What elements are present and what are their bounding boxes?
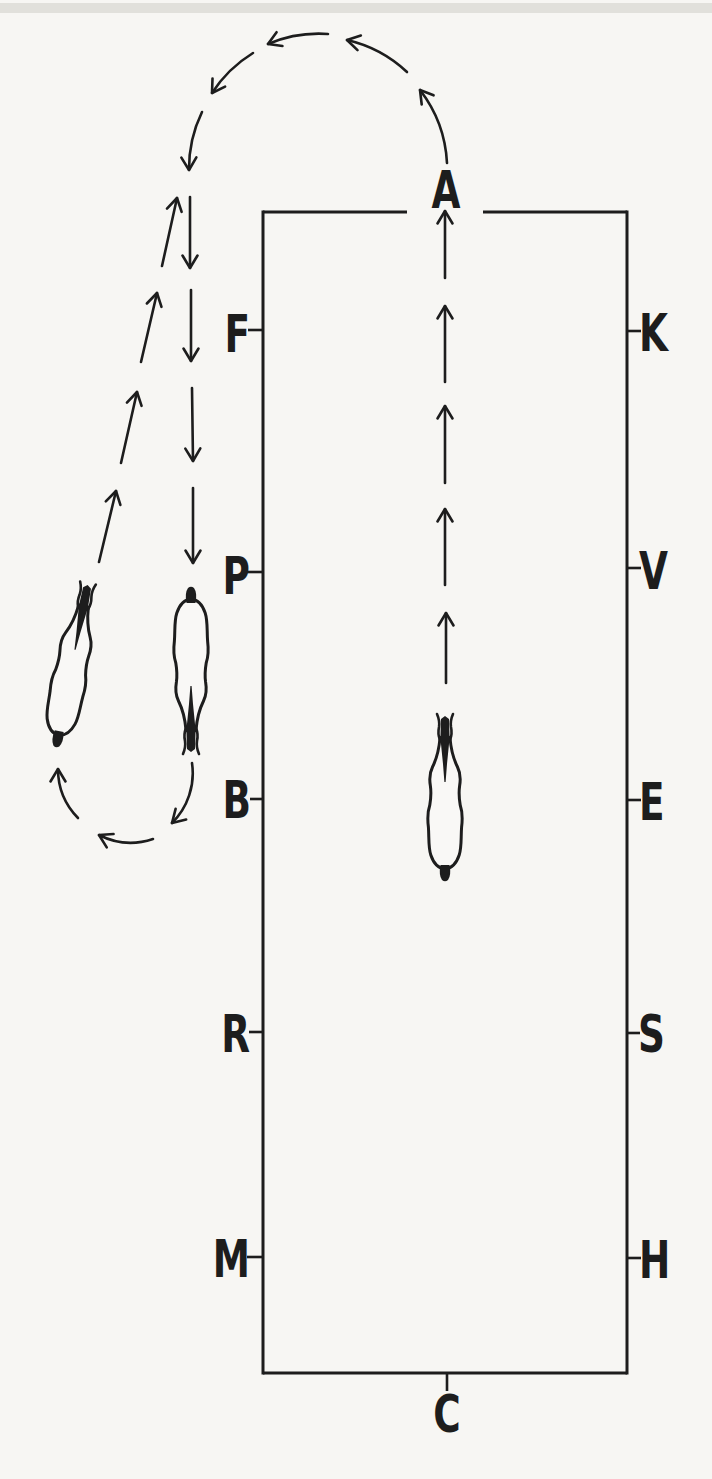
- marker-letter-f: F: [224, 304, 250, 365]
- dashed-arrow-down: [192, 388, 193, 461]
- marker-letter-r: R: [221, 1004, 250, 1065]
- marker-letter-c: C: [433, 1384, 460, 1445]
- marker-letter-h: H: [639, 1230, 670, 1291]
- marker-letter-v: V: [639, 541, 668, 602]
- page-top-scan-edge: [0, 3, 712, 13]
- marker-letter-b: B: [222, 770, 251, 831]
- marker-letter-m: M: [213, 1229, 250, 1290]
- page-background: [0, 0, 712, 1479]
- marker-letter-p: P: [223, 546, 250, 607]
- marker-letter-e: E: [639, 772, 665, 833]
- book-page: A C F P B R M K V E S H: [0, 0, 712, 1479]
- dressage-diagram: A C F P B R M K V E S H: [0, 0, 712, 1479]
- marker-letter-k: K: [639, 303, 670, 364]
- marker-letter-s: S: [638, 1004, 665, 1065]
